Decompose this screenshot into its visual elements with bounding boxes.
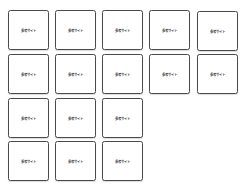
reference-site-card-7[interactable]: 参考サイト	[55, 54, 96, 94]
reference-site-card-3[interactable]: 参考サイト	[102, 10, 143, 50]
card-label: 参考サイト	[21, 116, 36, 121]
card-label: 参考サイト	[21, 28, 36, 33]
reference-site-card-11[interactable]: 参考サイト	[8, 98, 49, 138]
card-label: 参考サイト	[115, 72, 130, 77]
card-label: 参考サイト	[210, 29, 225, 34]
reference-site-card-10[interactable]: 参考サイト	[197, 54, 238, 94]
card-label: 参考サイト	[210, 72, 225, 77]
reference-site-grid: 参考サイト 参考サイト 参考サイト 参考サイト 参考サイト 参考サイト 参考サイ…	[0, 0, 245, 188]
reference-site-card-5[interactable]: 参考サイト	[197, 11, 238, 51]
reference-site-card-12[interactable]: 参考サイト	[55, 98, 96, 138]
card-label: 参考サイト	[68, 159, 83, 164]
reference-site-card-14[interactable]: 参考サイト	[8, 141, 49, 181]
card-label: 参考サイト	[162, 28, 177, 33]
card-label: 参考サイト	[68, 72, 83, 77]
reference-site-card-8[interactable]: 参考サイト	[102, 54, 143, 94]
reference-site-card-16[interactable]: 参考サイト	[102, 141, 143, 181]
card-label: 参考サイト	[115, 159, 130, 164]
reference-site-card-2[interactable]: 参考サイト	[55, 10, 96, 50]
card-label: 参考サイト	[21, 72, 36, 77]
card-label: 参考サイト	[115, 28, 130, 33]
card-label: 参考サイト	[162, 72, 177, 77]
card-label: 参考サイト	[115, 116, 130, 121]
reference-site-card-4[interactable]: 参考サイト	[149, 10, 190, 50]
reference-site-card-6[interactable]: 参考サイト	[8, 54, 49, 94]
card-label: 参考サイト	[68, 28, 83, 33]
card-label: 参考サイト	[68, 116, 83, 121]
reference-site-card-13[interactable]: 参考サイト	[102, 98, 143, 138]
reference-site-card-9[interactable]: 参考サイト	[149, 54, 190, 94]
reference-site-card-15[interactable]: 参考サイト	[55, 141, 96, 181]
card-label: 参考サイト	[21, 159, 36, 164]
reference-site-card-1[interactable]: 参考サイト	[8, 10, 49, 50]
